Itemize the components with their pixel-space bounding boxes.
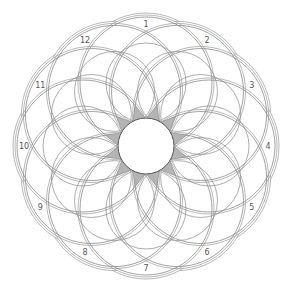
petal-label-11: 11 [35,81,45,90]
petal-label-7: 7 [143,264,148,273]
petal-label-9: 9 [38,203,43,212]
center-circle [118,118,174,174]
petal-label-2: 2 [204,36,209,45]
petal-label-3: 3 [249,81,254,90]
petal-label-8: 8 [82,248,87,257]
rosette-diagram: 1 2 3 4 5 6 7 8 9 10 11 12 [0,0,291,296]
petal-label-4: 4 [265,142,270,151]
petal-label-6: 6 [204,248,209,257]
petal-label-10: 10 [19,142,29,151]
petal-label-1: 1 [143,20,148,29]
petal-label-5: 5 [249,203,254,212]
petal-label-12: 12 [80,36,90,45]
